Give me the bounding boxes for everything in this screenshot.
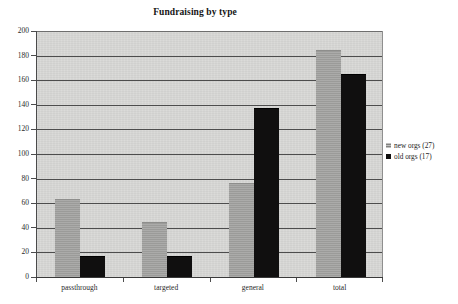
- y-tick-label: 0: [25, 272, 29, 282]
- bar: [254, 108, 279, 278]
- y-tick-140: 140: [0, 100, 36, 110]
- legend-item: old orgs (17): [386, 152, 458, 161]
- y-tick-label: 180: [18, 51, 29, 61]
- y-tick-label: 40: [22, 223, 30, 233]
- x-tick-mark: [210, 278, 211, 282]
- fundraising-bar-chart: Fundraising by type 02040608010012014016…: [0, 0, 458, 304]
- y-tick-80: 80: [0, 174, 36, 184]
- bar-group: [37, 31, 124, 277]
- y-tick-120: 120: [0, 124, 36, 134]
- chart-legend: new orgs (27)old orgs (17): [386, 141, 458, 163]
- bar: [316, 50, 341, 277]
- y-tick-0: 0: [0, 272, 36, 282]
- legend-label: new orgs (27): [394, 141, 434, 150]
- bar: [167, 256, 192, 277]
- legend-label: old orgs (17): [394, 152, 432, 161]
- y-tick-label: 120: [18, 124, 29, 134]
- bar-group: [124, 31, 211, 277]
- bar: [80, 256, 105, 277]
- bars-layer: [37, 31, 382, 277]
- x-tick-mark: [36, 278, 37, 282]
- x-axis-label: total: [296, 283, 383, 292]
- y-tick-60: 60: [0, 198, 36, 208]
- bar: [142, 222, 167, 277]
- y-tick-label: 140: [18, 100, 29, 110]
- y-tick-label: 80: [22, 174, 30, 184]
- bar-group: [297, 31, 384, 277]
- y-tick-label: 20: [22, 247, 30, 257]
- bar-group: [211, 31, 298, 277]
- y-tick-180: 180: [0, 51, 36, 61]
- y-axis: 020406080100120140160180200: [0, 31, 36, 278]
- x-axis-label: passthrough: [36, 283, 123, 292]
- y-tick-label: 60: [22, 198, 30, 208]
- y-tick-40: 40: [0, 223, 36, 233]
- x-tick-mark: [382, 278, 383, 282]
- y-tick-20: 20: [0, 247, 36, 257]
- y-tick-200: 200: [0, 26, 36, 36]
- y-tick-label: 200: [18, 26, 29, 36]
- chart-title: Fundraising by type: [0, 7, 390, 17]
- gray-square-swatch: [386, 143, 391, 148]
- x-tick-mark: [296, 278, 297, 282]
- y-tick-label: 160: [18, 75, 29, 85]
- x-tick-mark: [123, 278, 124, 282]
- y-tick-160: 160: [0, 75, 36, 85]
- x-axis-label: targeted: [123, 283, 210, 292]
- x-axis: passthroughtargetedgeneraltotal: [36, 277, 383, 303]
- bar: [55, 199, 80, 277]
- bar: [341, 74, 366, 277]
- plot-area: [36, 31, 383, 277]
- y-tick-label: 100: [18, 149, 29, 159]
- legend-item: new orgs (27): [386, 141, 458, 150]
- bar: [229, 183, 254, 277]
- y-tick-100: 100: [0, 149, 36, 159]
- black-square-swatch: [386, 154, 391, 159]
- x-axis-label: general: [210, 283, 297, 292]
